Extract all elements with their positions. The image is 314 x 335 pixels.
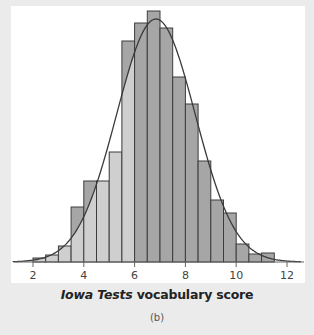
histogram-bar xyxy=(198,161,211,262)
histogram-bar xyxy=(173,77,186,262)
x-tick-label: 10 xyxy=(229,269,243,282)
histogram-bar xyxy=(135,23,148,262)
histogram-bar xyxy=(160,28,173,262)
bars xyxy=(33,11,274,262)
x-tick-label: 8 xyxy=(182,269,189,282)
figure-caption: (b) xyxy=(0,312,314,323)
x-axis-label-italic: Iowa Tests xyxy=(61,287,133,302)
x-tick-label: 12 xyxy=(280,269,294,282)
histogram-bar xyxy=(147,11,160,262)
x-tick-label: 6 xyxy=(131,269,138,282)
histogram-bar xyxy=(236,244,249,262)
x-axis-label: Iowa Tests vocabulary score xyxy=(0,287,314,302)
bar-shade-light xyxy=(109,152,122,262)
histogram-bar xyxy=(249,254,262,262)
x-tick-label: 4 xyxy=(80,269,87,282)
x-tick-label: 2 xyxy=(30,269,37,282)
x-axis-label-rest: vocabulary score xyxy=(132,287,253,302)
histogram-chart: 24681012 xyxy=(0,0,314,285)
bar-shade-light xyxy=(97,181,110,262)
histogram-bar xyxy=(185,104,198,262)
histogram-bar xyxy=(211,200,224,262)
